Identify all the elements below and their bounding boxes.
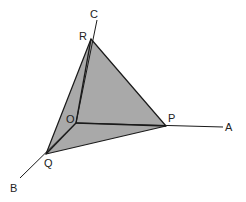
label-r: R — [79, 30, 87, 42]
triangle-pqr-face — [46, 39, 166, 154]
label-q: Q — [44, 157, 53, 169]
label-b: B — [10, 182, 17, 194]
label-p: P — [168, 112, 175, 124]
label-o: O — [66, 113, 75, 125]
diagram-canvas: C R O P A Q B — [0, 0, 246, 202]
label-c: C — [90, 8, 98, 20]
label-a: A — [225, 121, 233, 133]
